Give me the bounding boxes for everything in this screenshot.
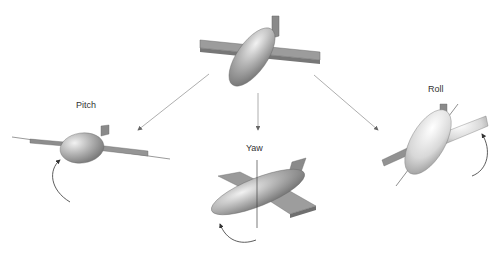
aircraft-center xyxy=(200,16,320,93)
label-roll: Roll xyxy=(428,84,444,94)
aircraft-roll xyxy=(382,102,488,186)
roll-rotation-arrow xyxy=(472,134,487,176)
arrow-to-roll xyxy=(314,75,378,130)
arrow-to-pitch xyxy=(138,74,209,130)
label-yaw: Yaw xyxy=(246,143,263,153)
label-pitch: Pitch xyxy=(76,100,96,110)
rotation-diagram xyxy=(0,0,504,256)
aircraft-pitch xyxy=(12,125,170,202)
yaw-rotation-arrow xyxy=(220,224,256,242)
pitch-rotation-arrow xyxy=(53,160,70,202)
aircraft-yaw xyxy=(206,158,316,242)
